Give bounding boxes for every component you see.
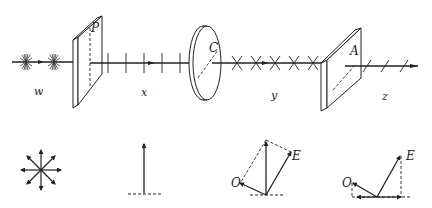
vertical-vector: [128, 144, 162, 194]
beam-x: [90, 53, 190, 73]
extraordinary-label-2: E: [406, 150, 415, 162]
region-y-label: y: [271, 90, 277, 101]
analyzer-projection: [352, 156, 412, 197]
crystal-label: C: [209, 42, 218, 54]
analyzer-label: A: [350, 45, 359, 57]
analyzer-plate: [321, 28, 361, 111]
ordinary-label-2: O: [342, 177, 352, 189]
ordinary-label-1: O: [231, 177, 241, 189]
beam-y: [212, 56, 322, 70]
region-z-label: z: [382, 91, 388, 102]
ordinary-extraordinary-decomposition: [240, 140, 291, 195]
extraordinary-label-1: E: [292, 150, 301, 162]
polarizer-label: P: [91, 22, 99, 34]
polarization-diagram: P C A w x y z E O E O: [0, 0, 432, 208]
diagram-canvas: [0, 0, 432, 208]
region-x-label: x: [141, 87, 147, 98]
unpolarized-vector-star: [21, 150, 61, 190]
beam-w: [12, 54, 73, 70]
region-w-label: w: [34, 86, 43, 97]
